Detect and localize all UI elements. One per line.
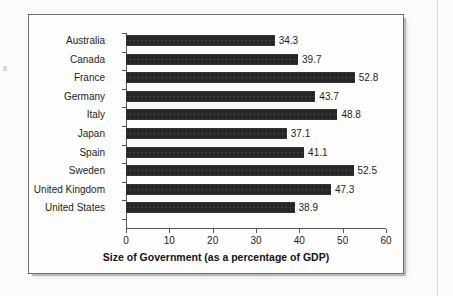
y-axis-tick (122, 182, 126, 183)
category-label: Australia (0, 35, 105, 46)
bar (126, 91, 315, 102)
y-axis-tick (122, 107, 126, 108)
bar-value-label: 52.8 (359, 72, 378, 83)
bar-value-label: 39.7 (302, 54, 321, 65)
x-axis-tick (386, 229, 387, 233)
x-axis-tick (256, 229, 257, 233)
bar (126, 54, 298, 65)
chart-figure-frame: Australia34.3Canada39.7France52.8Germany… (28, 14, 404, 274)
bar-value-label: 52.5 (358, 165, 377, 176)
bar (126, 109, 337, 120)
x-axis-tick-label: 40 (294, 235, 305, 246)
y-axis-tick (122, 126, 126, 127)
bar-row: France52.8 (29, 70, 403, 89)
bar-row: Spain41.1 (29, 145, 403, 164)
bar-row: Germany43.7 (29, 89, 403, 108)
scan-margin-speck (3, 66, 7, 71)
y-axis-tick (122, 70, 126, 71)
category-label: Germany (0, 91, 105, 102)
category-label: France (0, 72, 105, 83)
bar (126, 35, 275, 46)
bar-value-label: 43.7 (319, 91, 338, 102)
bar-value-label: 41.1 (308, 147, 327, 158)
bar (126, 184, 331, 195)
x-axis-tick-label: 0 (123, 235, 129, 246)
x-axis-tick-label: 30 (250, 235, 261, 246)
bar-row: Canada39.7 (29, 52, 403, 71)
bar (126, 165, 354, 176)
x-axis-tick-label: 10 (164, 235, 175, 246)
category-label: Italy (0, 109, 105, 120)
y-axis-tick (122, 163, 126, 164)
bar (126, 72, 355, 83)
bar-row: Italy48.8 (29, 107, 403, 126)
page-edge-artifact (437, 0, 438, 296)
x-axis-title: Size of Government (as a percentage of G… (29, 251, 403, 263)
category-label: Spain (0, 147, 105, 158)
category-label: United States (0, 202, 105, 213)
category-label: Japan (0, 128, 105, 139)
y-axis-tick (122, 89, 126, 90)
y-axis-tick (122, 200, 126, 201)
bar-row: United Kingdom47.3 (29, 182, 403, 201)
x-axis-tick-label: 20 (207, 235, 218, 246)
bar-value-label: 34.3 (279, 35, 298, 46)
x-axis-tick (299, 229, 300, 233)
bar-value-label: 38.9 (299, 202, 318, 213)
x-axis-tick (126, 229, 127, 233)
y-axis-tick (122, 219, 126, 220)
bar (126, 147, 304, 158)
category-label: Canada (0, 54, 105, 65)
y-axis-tick (122, 33, 126, 34)
category-label: Sweden (0, 165, 105, 176)
bar-value-label: 48.8 (341, 109, 360, 120)
bar-value-label: 47.3 (335, 184, 354, 195)
bar-row: United States38.9 (29, 200, 403, 219)
y-axis-tick (122, 52, 126, 53)
bar-row: Sweden52.5 (29, 163, 403, 182)
bar-chart-plot-area: Australia34.3Canada39.7France52.8Germany… (29, 15, 403, 273)
bar (126, 202, 295, 213)
x-axis-tick (169, 229, 170, 233)
bar (126, 128, 287, 139)
bar-row: Australia34.3 (29, 33, 403, 52)
x-axis-tick-label: 60 (380, 235, 391, 246)
y-axis-tick (122, 145, 126, 146)
x-axis-tick (343, 229, 344, 233)
x-axis-tick-label: 50 (337, 235, 348, 246)
bar-row: Japan37.1 (29, 126, 403, 145)
x-axis-tick (213, 229, 214, 233)
bar-value-label: 37.1 (291, 128, 310, 139)
category-label: United Kingdom (0, 184, 105, 195)
